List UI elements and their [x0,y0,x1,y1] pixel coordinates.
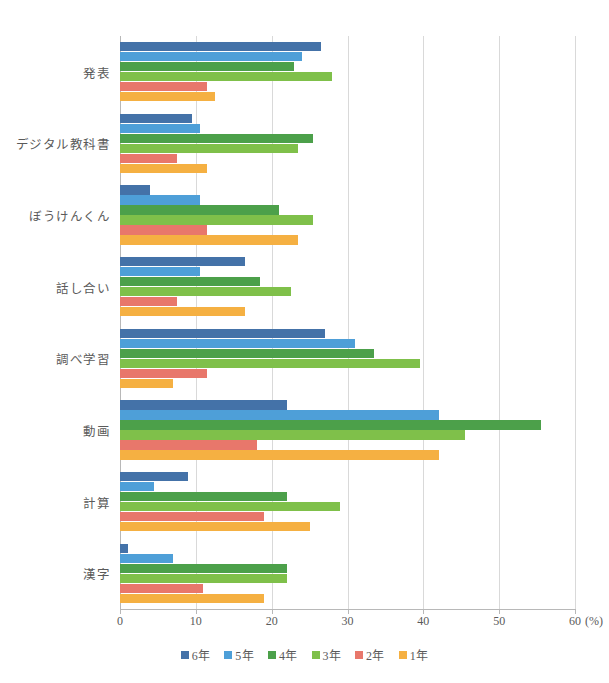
bar[interactable] [120,584,203,593]
bar[interactable] [120,124,200,133]
legend-item-2年[interactable]: 2年 [355,646,385,664]
bar-row [120,564,575,573]
legend-item-4年[interactable]: 4年 [268,646,298,664]
bar-row [120,450,575,459]
legend-swatch-icon [268,651,276,659]
bar[interactable] [120,114,192,123]
bar[interactable] [120,339,355,348]
bar-row [120,72,575,81]
bar[interactable] [120,430,465,439]
bar[interactable] [120,195,200,204]
bar[interactable] [120,164,207,173]
x-tick-label: 10 [190,614,202,629]
bar-row [120,134,575,143]
bar-row [120,369,575,378]
bar-row [120,164,575,173]
bar-row [120,257,575,266]
bar[interactable] [120,52,302,61]
bar-row [120,329,575,338]
bar[interactable] [120,512,264,521]
bar-chart: 発表デジタル教科書ぼうけんくん話し合い調べ学習動画計算漢字 0102030405… [0,0,609,683]
legend-swatch-icon [312,651,320,659]
bar[interactable] [120,307,245,316]
bar[interactable] [120,410,439,419]
legend-label: 4年 [279,646,298,664]
legend-label: 5年 [235,646,254,664]
bar-row [120,52,575,61]
bar-row [120,440,575,449]
bar[interactable] [120,522,310,531]
bar-row [120,62,575,71]
legend-item-6年[interactable]: 6年 [181,646,211,664]
bar[interactable] [120,72,332,81]
bar[interactable] [120,257,245,266]
x-tick-label: 0 [117,614,123,629]
bar-row [120,195,575,204]
bar[interactable] [120,297,177,306]
bar-row [120,307,575,316]
bar[interactable] [120,267,200,276]
bar[interactable] [120,277,260,286]
bar[interactable] [120,225,207,234]
bar[interactable] [120,359,420,368]
bar[interactable] [120,82,207,91]
bar[interactable] [120,185,150,194]
bar[interactable] [120,492,287,501]
bar[interactable] [120,554,173,563]
bar[interactable] [120,502,340,511]
bar[interactable] [120,329,325,338]
x-tick-label: 60 [569,614,581,629]
legend-swatch-icon [224,651,232,659]
bar-row [120,472,575,481]
bar-row [120,287,575,296]
bar[interactable] [120,472,188,481]
category-label: ぼうけんくん [0,206,110,225]
bar[interactable] [120,420,541,429]
category-label: 発表 [0,63,110,82]
category-label: 調べ学習 [0,349,110,368]
bar[interactable] [120,154,177,163]
bar[interactable] [120,62,294,71]
bar[interactable] [120,215,313,224]
bar[interactable] [120,287,291,296]
bar[interactable] [120,369,207,378]
legend-label: 6年 [192,646,211,664]
bar[interactable] [120,440,257,449]
bar[interactable] [120,349,374,358]
bar[interactable] [120,379,173,388]
bar[interactable] [120,594,264,603]
bar[interactable] [120,235,298,244]
bar[interactable] [120,205,279,214]
legend-label: 3年 [323,646,342,664]
bar-row [120,502,575,511]
bar[interactable] [120,42,321,51]
legend-item-1年[interactable]: 1年 [399,646,429,664]
bar-row [120,410,575,419]
bar[interactable] [120,450,439,459]
bar[interactable] [120,564,287,573]
bar-row [120,267,575,276]
bar-row [120,235,575,244]
legend-item-3年[interactable]: 3年 [312,646,342,664]
bar-row [120,144,575,153]
bar[interactable] [120,92,215,101]
chart-legend: 6年5年4年3年2年1年 [0,646,609,664]
bar[interactable] [120,400,287,409]
bar-row [120,554,575,563]
bar-row [120,430,575,439]
bar-row [120,185,575,194]
bar-row [120,482,575,491]
legend-swatch-icon [399,651,407,659]
bar[interactable] [120,482,154,491]
bar-row [120,359,575,368]
bar-row [120,544,575,553]
x-tick-label: 20 [266,614,278,629]
category-label: 動画 [0,421,110,440]
bar-row [120,584,575,593]
bar[interactable] [120,544,128,553]
bar-row [120,339,575,348]
bar[interactable] [120,144,298,153]
bar[interactable] [120,574,287,583]
bar[interactable] [120,134,313,143]
legend-item-5年[interactable]: 5年 [224,646,254,664]
